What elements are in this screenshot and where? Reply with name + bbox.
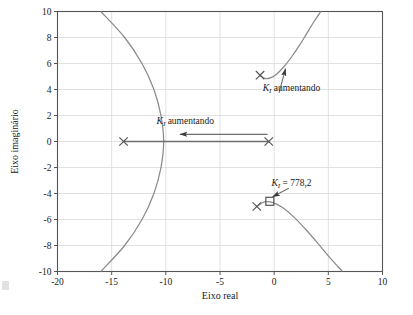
y-axis-title: Eixo imaginário — [9, 109, 20, 174]
y-tick-label: 8 — [47, 33, 52, 43]
y-tick-label: 4 — [47, 85, 52, 95]
x-tick-label: -5 — [216, 277, 224, 287]
y-tick-label: -6 — [44, 215, 52, 225]
x-tick-label: 5 — [326, 277, 331, 287]
root-locus-figure: -20-15-10-50510-10-8-6-4-20246810Eixo re… — [0, 0, 413, 315]
annotation-label-ki-increasing-upper: KI aumentando — [262, 83, 321, 95]
pole-marker-x — [253, 202, 261, 210]
axis-ticks — [54, 12, 383, 276]
y-tick-label: 0 — [47, 137, 52, 147]
x-tick-label: -10 — [159, 277, 172, 287]
y-tick-label: 10 — [42, 7, 52, 17]
x-tick-label: -20 — [51, 277, 64, 287]
annotations: KI aumentandoKI aumentandoKI = 778,2 — [156, 69, 321, 197]
y-tick-label: 2 — [47, 111, 52, 121]
x-tick-label: -15 — [105, 277, 118, 287]
y-tick-label: -4 — [44, 189, 52, 199]
y-tick-label: -8 — [44, 241, 52, 251]
x-axis-title: Eixo real — [202, 290, 239, 301]
root-locus-plot-canvas: -20-15-10-50510-10-8-6-4-20246810Eixo re… — [0, 0, 413, 315]
locus-branch-upper-complex-branch — [260, 12, 321, 79]
annotation-label-ki-increasing-real-axis: KI aumentando — [156, 116, 215, 128]
y-tick-label: 6 — [47, 59, 52, 69]
y-tick-label: -10 — [39, 267, 52, 277]
x-tick-label: 0 — [272, 277, 277, 287]
annotation-arrow-ki-value-callout — [273, 188, 289, 196]
locus-branch-lower-complex-branch — [257, 202, 343, 272]
y-tick-label: -2 — [44, 163, 52, 173]
x-tick-label: 10 — [378, 277, 388, 287]
page-edge-artifact — [2, 281, 9, 290]
pole-marker-x — [256, 71, 264, 79]
annotation-label-ki-value-callout: KI = 778,2 — [270, 178, 311, 190]
